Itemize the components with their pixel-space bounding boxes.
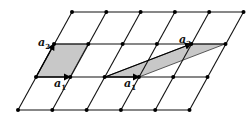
lattice-point: [85, 108, 89, 112]
lattice-point: [155, 42, 159, 46]
lattice-point: [139, 10, 143, 14]
lattice-point: [171, 75, 175, 79]
lattice-point: [207, 10, 211, 14]
lattice-point: [50, 108, 54, 112]
grid-column-line: [190, 12, 244, 110]
lattice-point: [137, 75, 141, 79]
grid-column-line: [87, 12, 141, 110]
label-a2-right: a2: [179, 34, 191, 47]
lattice-point: [242, 10, 246, 14]
lattice-point: [103, 75, 107, 79]
lattice-point: [52, 42, 56, 46]
lattice-point: [16, 108, 20, 112]
lattice-point: [173, 10, 177, 14]
lattice-point: [104, 10, 108, 14]
lattice-point: [188, 108, 192, 112]
skewed-primitive-cell: [105, 44, 225, 77]
label-a1-left: a1: [54, 78, 66, 91]
lattice-point: [153, 108, 157, 112]
lattice-point: [206, 75, 210, 79]
lattice-grid: [0, 0, 250, 119]
lattice-point: [68, 75, 72, 79]
lattice-point: [70, 10, 74, 14]
lattice-point: [119, 108, 123, 112]
label-a2-left: a2: [38, 37, 50, 50]
lattice-diagram: a2a1a1a2: [0, 0, 250, 119]
lattice-point: [121, 42, 125, 46]
lattice-point: [86, 42, 90, 46]
lattice-point: [224, 42, 228, 46]
label-a1-right: a1: [124, 78, 136, 91]
lattice-point: [34, 75, 38, 79]
